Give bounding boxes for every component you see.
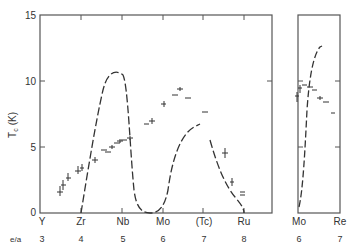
- ea-value: 8: [241, 234, 246, 244]
- calculated-curve-right: [299, 46, 322, 207]
- element-label-ru: Ru: [238, 216, 251, 227]
- ea-value: 4: [78, 234, 83, 244]
- element-label-zr: Zr: [76, 216, 86, 227]
- right-plot-frame: [298, 15, 340, 213]
- left-panel: [40, 15, 272, 213]
- left-plot-frame: [40, 15, 272, 213]
- ea-value: 6: [160, 234, 165, 244]
- ea-value: 7: [337, 234, 342, 244]
- element-label-y: Y: [39, 216, 46, 227]
- y-axis-title: Tc(K): [7, 112, 19, 138]
- measured-points-left: [57, 87, 245, 196]
- ea-value: 6: [296, 234, 301, 244]
- y-tick-10: 10: [25, 76, 37, 87]
- element-label-re: Re: [334, 216, 347, 227]
- y-tick-0: 0: [30, 207, 36, 218]
- calculated-curve-left-tail: [210, 140, 244, 213]
- ea-value: 7: [201, 234, 206, 244]
- ea-value: 5: [120, 234, 125, 244]
- calculated-curve-left-peak: [81, 72, 200, 213]
- ea-row-label: e/a: [10, 235, 22, 244]
- element-label-mo-right: Mo: [292, 216, 306, 227]
- measured-points-right: [295, 85, 335, 113]
- svg-text:Tc(K): Tc(K): [7, 112, 19, 138]
- ea-value: 3: [39, 234, 44, 244]
- y-tick-15: 15: [25, 10, 37, 21]
- right-panel: [298, 15, 340, 213]
- tc-chart: 15 10 5 0 Tc(K) Y Zr Nb Mo (Tc) Ru Mo Re…: [0, 0, 355, 248]
- element-label-mo: Mo: [156, 216, 170, 227]
- y-tick-5: 5: [30, 142, 36, 153]
- element-label-tc: (Tc): [196, 216, 213, 227]
- element-label-nb: Nb: [117, 216, 130, 227]
